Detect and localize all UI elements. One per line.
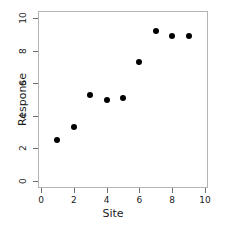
data-point [120,95,126,101]
x-axis-tick [41,188,42,193]
x-axis-tick [107,188,108,193]
x-axis-tick-label: 8 [162,195,182,205]
y-axis-tick [33,18,38,19]
y-axis-title: Response [16,11,30,188]
y-axis-tick [33,181,38,182]
y-axis-tick [33,83,38,84]
x-axis-tick-label: 6 [129,195,149,205]
x-axis-tick-label: 0 [31,195,51,205]
data-point [153,28,159,34]
scatter-plot-figure: 02468100246810 Response Site [0,0,226,227]
x-axis-tick [205,188,206,193]
x-axis-tick [139,188,140,193]
x-axis-tick [172,188,173,193]
y-axis-tick [33,116,38,117]
y-axis-title-wrapper: Response [2,11,16,188]
x-axis-tick-label: 2 [64,195,84,205]
x-axis-tick-label: 4 [97,195,117,205]
data-point [186,33,192,39]
x-axis-tick-label: 10 [195,195,215,205]
x-axis-tick [74,188,75,193]
y-axis-tick [33,51,38,52]
x-axis-title: Site [0,207,226,220]
data-point [71,124,77,130]
data-point [104,97,110,103]
data-point [87,92,93,98]
y-axis-tick [33,148,38,149]
